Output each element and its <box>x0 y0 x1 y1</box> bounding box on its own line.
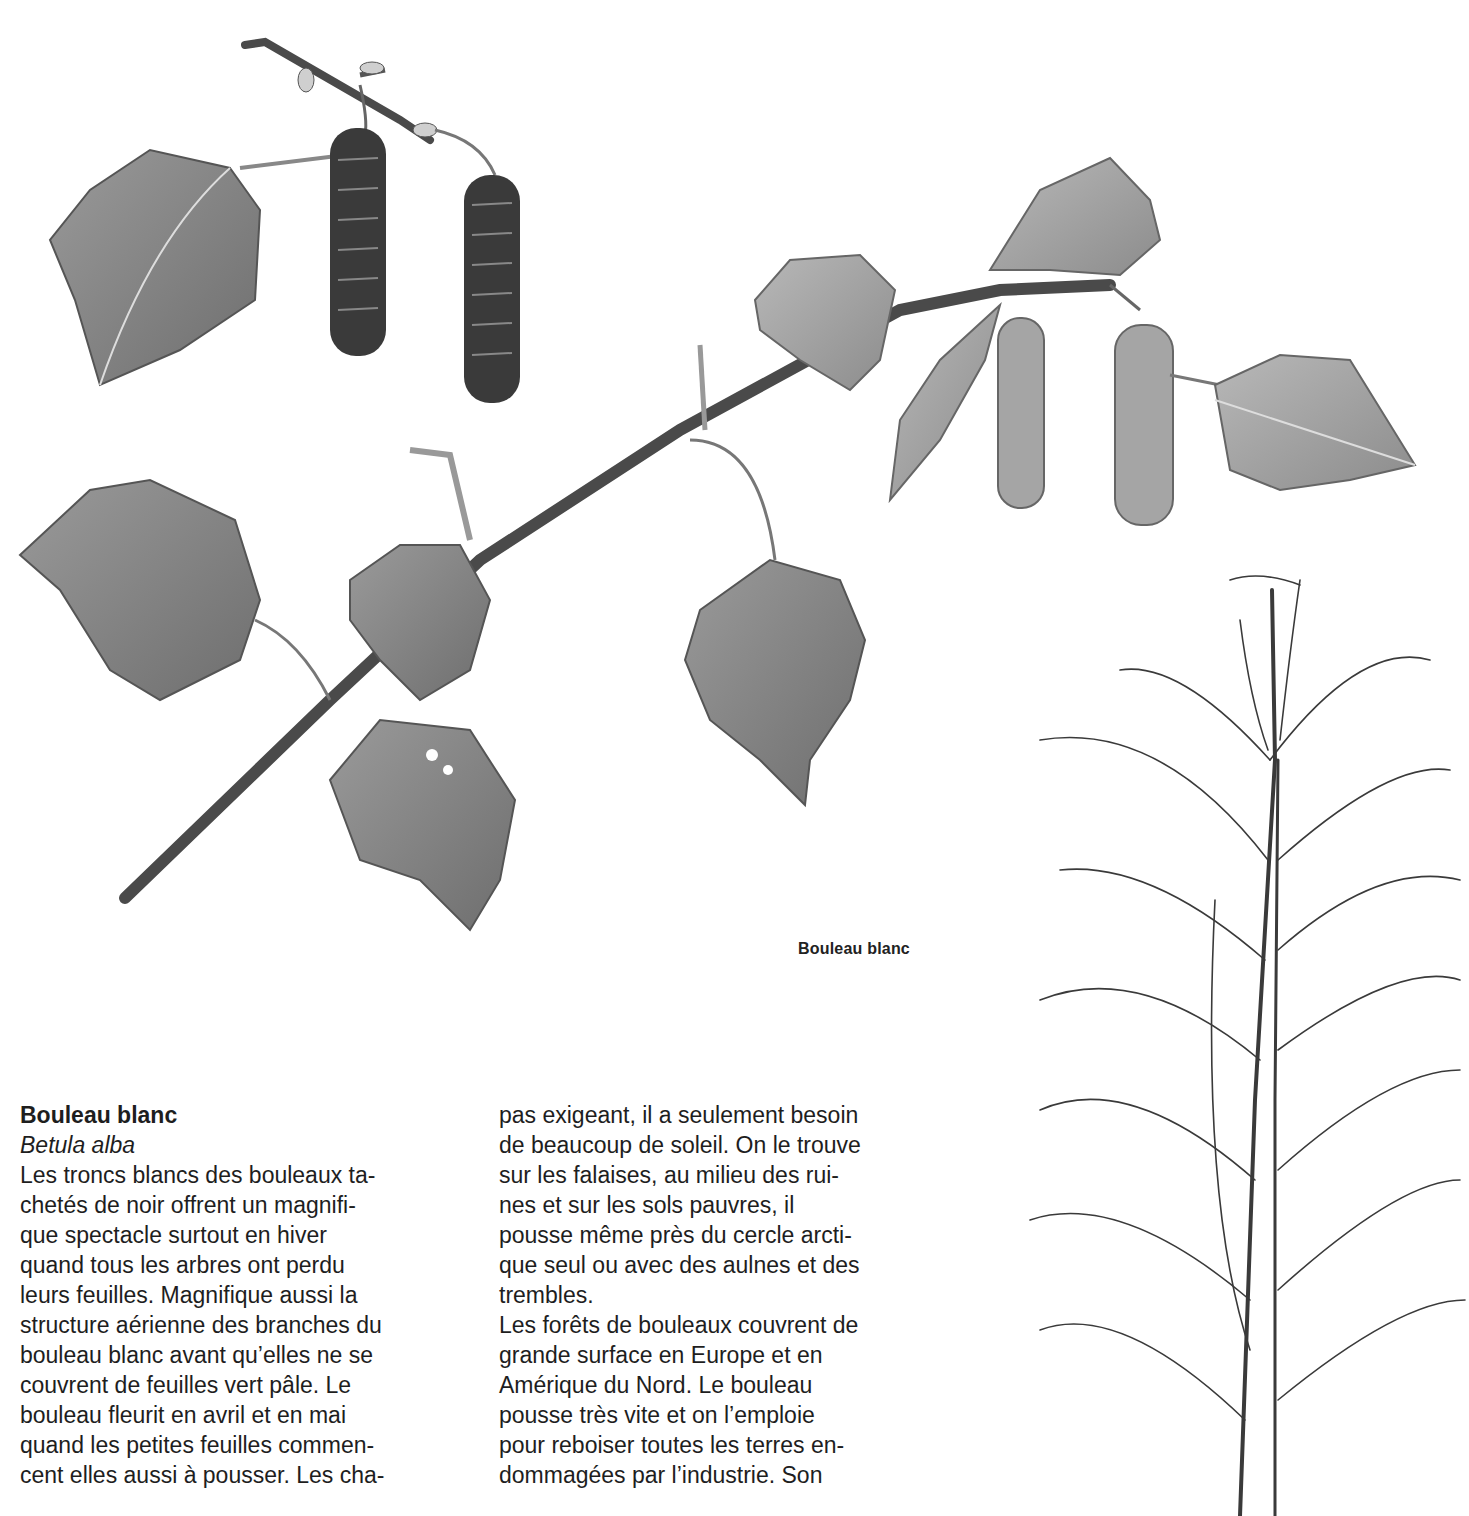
text-line: Les troncs blancs des bouleaux ta- <box>20 1160 480 1190</box>
illustration-caption: Bouleau blanc <box>798 940 910 958</box>
article-column-1: Bouleau blanc Betula alba Les troncs bla… <box>20 1100 480 1490</box>
text-line: pas exigeant, il a seulement besoin <box>499 1100 959 1130</box>
text-line: leurs feuilles. Magnifique aussi la <box>20 1280 480 1310</box>
text-line: chetés de noir offrent un magnifi- <box>20 1190 480 1220</box>
text-line: que seul ou avec des aulnes et des <box>499 1250 959 1280</box>
text-line: quand tous les arbres ont perdu <box>20 1250 480 1280</box>
text-line: structure aérienne des branches du <box>20 1310 480 1340</box>
text-line: sur les falaises, au milieu des rui- <box>499 1160 959 1190</box>
text-line: pour reboiser toutes les terres en- <box>499 1430 959 1460</box>
article-column-2: pas exigeant, il a seulement besoin de b… <box>499 1100 959 1490</box>
text-line: couvrent de feuilles vert pâle. Le <box>20 1370 480 1400</box>
text-line: Les forêts de bouleaux couvrent de <box>499 1310 959 1340</box>
text-line: que spectacle surtout en hiver <box>20 1220 480 1250</box>
text-line: quand les petites feuilles commen- <box>20 1430 480 1460</box>
article-title: Bouleau blanc <box>20 1100 480 1130</box>
text-line: pousse même près du cercle arcti- <box>499 1220 959 1250</box>
text-line: bouleau fleurit en avril et en mai <box>20 1400 480 1430</box>
latin-name: Betula alba <box>20 1130 480 1160</box>
text-line: nes et sur les sols pauvres, il <box>499 1190 959 1220</box>
text-line: pousse très vite et on l’emploie <box>499 1400 959 1430</box>
text-line: grande surface en Europe et en <box>499 1340 959 1370</box>
text-line: cent elles aussi à pousser. Les cha- <box>20 1460 480 1490</box>
text-line: bouleau blanc avant qu’elles ne se <box>20 1340 480 1370</box>
text-line: dommagées par l’industrie. Son <box>499 1460 959 1490</box>
text-line: Amérique du Nord. Le bouleau <box>499 1370 959 1400</box>
text-line: de beaucoup de soleil. On le trouve <box>499 1130 959 1160</box>
text-line: trembles. <box>499 1280 959 1310</box>
